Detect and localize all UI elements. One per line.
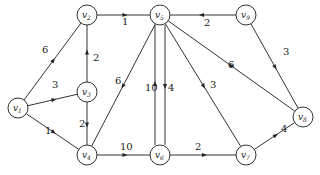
edge-weight: 2 [195,141,201,152]
edge-weight: 3 [210,79,216,90]
edge-weight: 2 [79,118,85,129]
node-v3: v3 [77,82,97,102]
edge-weight: 1 [45,125,51,136]
edge-weight: 3 [52,79,58,90]
edge-v7-v8: 4 [254,123,294,150]
edge-weight: 4 [281,123,287,134]
edge-weight: 10 [145,82,158,93]
arrowhead-icon [272,64,276,69]
edge-v1-v4: 1 [26,114,78,150]
arrowhead-icon [85,123,89,128]
node-v1: v1 [8,98,28,118]
arrowhead-icon [85,50,89,55]
node-v9: v9 [236,5,256,25]
edge-weight: 6 [42,44,48,55]
edge-v5-v7: 3 [165,24,241,147]
node-v8: v8 [293,107,313,127]
edge-v6-v5: 10 [145,25,158,145]
edge-v4-v6: 10 [97,141,150,157]
edge-weight: 6 [115,75,121,86]
node-v4: v4 [77,145,97,165]
node-v7: v7 [236,145,256,165]
edge-weight: 3 [283,46,289,57]
edge-weight: 2 [93,52,99,63]
arrowhead-icon [123,153,128,157]
arrowhead-icon [163,84,167,89]
node-v2: v2 [77,5,97,25]
arrowhead-icon [122,83,126,88]
edge-v9-v5: 2 [170,13,236,28]
graph-diagram: 631221610104236324 v1v2v3v4v5v6v7v8v9 [0,0,320,175]
edges-layer: 631221610104236324 [24,13,298,157]
node-v6: v6 [150,145,170,165]
edge-v9-v8: 3 [251,24,298,109]
edge-v3-v2: 2 [85,25,99,82]
arrowhead-icon [202,153,207,157]
arrowhead-icon [201,83,205,88]
node-v5: v5 [150,5,170,25]
edge-v5-v6: 4 [163,25,174,145]
edge-weight: 2 [204,17,210,28]
edge-v1-v3: 3 [28,79,78,106]
arrowhead-icon [273,134,278,138]
edge-v3-v4: 2 [79,102,89,145]
edge-v6-v7: 2 [170,141,236,157]
edge-v2-v5: 1 [97,13,150,27]
edge-weight: 4 [168,82,174,93]
edge-weight: 10 [120,141,133,152]
edge-weight: 6 [228,59,234,70]
edge-weight: 1 [122,16,128,27]
